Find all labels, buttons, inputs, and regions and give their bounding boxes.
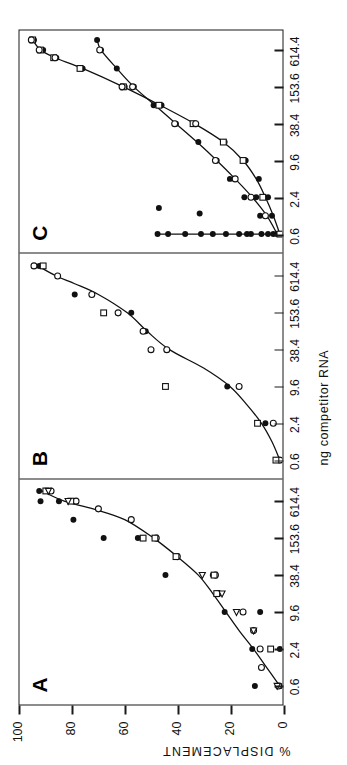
data-point-filled-circle xyxy=(94,37,100,43)
data-point-open-circle xyxy=(247,194,253,200)
y-tick xyxy=(124,705,126,714)
data-point-open-square xyxy=(152,535,158,541)
x-tick-label: 614.4 xyxy=(287,487,301,517)
data-point-open-circle xyxy=(140,327,146,333)
x-tick-label: 153.6 xyxy=(287,524,301,554)
data-point-open-circle xyxy=(262,213,268,219)
panel-b-svg xyxy=(19,253,282,477)
x-tick-label: 153.6 xyxy=(287,298,301,328)
x-axis-title: ng competitor RNA xyxy=(316,349,330,465)
data-point-filled-circle xyxy=(269,213,275,219)
y-tick xyxy=(177,705,179,714)
data-point-open-square xyxy=(254,420,260,426)
data-point-filled-circle xyxy=(70,516,76,522)
x-tick-label: 9.6 xyxy=(287,379,301,396)
x-tick-label: 2.4 xyxy=(287,641,301,658)
fitted-curve-strong-curve xyxy=(32,40,279,234)
data-point-filled-circle xyxy=(257,213,263,219)
data-point-open-triangle xyxy=(233,609,239,615)
data-point-open-square xyxy=(156,102,162,108)
data-point-filled-circle xyxy=(209,231,215,237)
data-point-open-circle xyxy=(36,47,42,53)
data-point-open-square xyxy=(267,646,273,652)
x-tick xyxy=(274,197,283,199)
x-tick xyxy=(274,234,283,236)
data-point-filled-circle xyxy=(100,535,106,541)
data-point-filled-circle xyxy=(258,231,264,237)
data-point-filled-circle xyxy=(154,231,160,237)
data-point-open-circle xyxy=(240,609,246,615)
data-point-open-circle xyxy=(163,346,169,352)
x-tick xyxy=(274,49,283,51)
y-tick xyxy=(71,705,73,714)
y-tick xyxy=(18,705,20,714)
x-tick xyxy=(274,160,283,162)
data-point-open-square xyxy=(240,157,246,163)
x-tick-label: 9.6 xyxy=(287,604,301,621)
x-tick-label: 0.6 xyxy=(287,228,301,245)
data-point-open-circle xyxy=(54,272,60,278)
data-point-filled-circle xyxy=(222,231,228,237)
data-point-filled-circle xyxy=(236,231,242,237)
data-point-open-circle xyxy=(128,516,134,522)
x-tick xyxy=(274,123,283,125)
x-tick-label: 38.4 xyxy=(287,564,301,587)
x-tick-label: 0.6 xyxy=(287,453,301,470)
data-point-open-square xyxy=(40,262,46,268)
x-axis-ticks: 0.62.49.638.4153.6614.40.62.49.638.4153.… xyxy=(283,29,317,705)
data-point-filled-circle xyxy=(195,139,201,145)
panel-c-plot-area xyxy=(19,28,282,252)
y-tick xyxy=(230,705,232,714)
data-point-filled-circle xyxy=(182,231,188,237)
data-point-open-square xyxy=(220,139,226,145)
data-point-open-square xyxy=(211,572,217,578)
y-tick-label: 60 xyxy=(116,721,130,765)
data-point-filled-circle xyxy=(36,487,42,493)
data-point-open-circle xyxy=(96,47,102,53)
data-point-filled-circle xyxy=(165,231,171,237)
x-tick xyxy=(274,275,283,277)
data-point-filled-circle xyxy=(226,176,232,182)
data-point-filled-circle xyxy=(241,194,247,200)
figure-canvas: A B C 0.62.49. xyxy=(0,0,347,765)
data-point-open-circle xyxy=(88,291,94,297)
panel-a: A xyxy=(19,479,282,704)
rotated-figure-wrapper: A B C 0.62.49. xyxy=(0,0,347,765)
x-tick-label: 614.4 xyxy=(287,36,301,66)
data-point-filled-circle xyxy=(196,210,202,216)
data-point-open-circle xyxy=(119,84,125,90)
x-tick-label: 38.4 xyxy=(287,113,301,136)
y-axis-title: % DISPLACEMENT xyxy=(161,743,290,757)
data-point-filled-circle xyxy=(255,176,261,182)
data-point-open-square xyxy=(162,383,168,389)
data-point-open-circle xyxy=(95,505,101,511)
panel-b-plot-area xyxy=(19,253,282,477)
y-tick-label: 100 xyxy=(10,721,24,765)
panel-b: B xyxy=(19,253,282,478)
x-tick-label: 614.4 xyxy=(287,261,301,291)
x-tick xyxy=(274,312,283,314)
panel-c: C xyxy=(19,28,282,253)
data-point-open-square xyxy=(259,194,265,200)
data-point-open-circle xyxy=(129,84,135,90)
panel-a-svg xyxy=(19,479,282,704)
data-point-filled-circle xyxy=(134,535,140,541)
x-tick xyxy=(274,574,283,576)
data-point-filled-circle xyxy=(224,383,230,389)
x-tick-label: 153.6 xyxy=(287,73,301,103)
x-tick xyxy=(274,500,283,502)
x-tick xyxy=(274,611,283,613)
data-point-open-square xyxy=(173,553,179,559)
plot-frame: A B C xyxy=(18,29,283,705)
figure-page: A B C 0.62.49. xyxy=(0,0,347,765)
data-point-filled-circle xyxy=(265,231,271,237)
panel-a-plot-area xyxy=(19,479,282,704)
data-point-open-square xyxy=(100,309,106,315)
data-point-filled-circle xyxy=(197,231,203,237)
y-tick-label: 80 xyxy=(63,721,77,765)
data-point-open-circle xyxy=(115,309,121,315)
panel-c-svg xyxy=(19,28,282,252)
x-tick xyxy=(274,648,283,650)
data-point-open-circle xyxy=(28,37,34,43)
x-tick-label: 9.6 xyxy=(287,154,301,171)
